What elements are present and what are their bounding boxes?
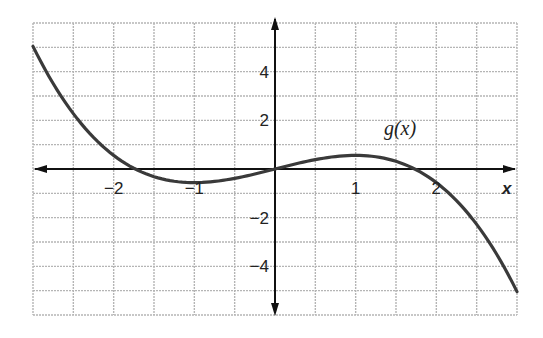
- y-tick-label: −2: [250, 209, 269, 228]
- x-tick-label: 2: [432, 179, 441, 198]
- arrow-left-icon: [34, 165, 47, 173]
- arrow-down-icon: [271, 303, 279, 316]
- axes: [34, 17, 516, 316]
- function-label: g(x): [384, 117, 417, 140]
- arrow-right-icon: [503, 165, 516, 173]
- x-axis-label: x: [501, 179, 513, 198]
- x-tick-label: −2: [104, 179, 123, 198]
- y-tick-label: 4: [260, 63, 269, 82]
- x-tick-label: −1: [185, 179, 204, 198]
- x-tick-label: 1: [351, 179, 360, 198]
- y-tick-label: −4: [250, 257, 269, 276]
- y-tick-label: 2: [260, 111, 269, 130]
- function-graph: −2−112 42−2−4 g(x) x: [0, 0, 543, 338]
